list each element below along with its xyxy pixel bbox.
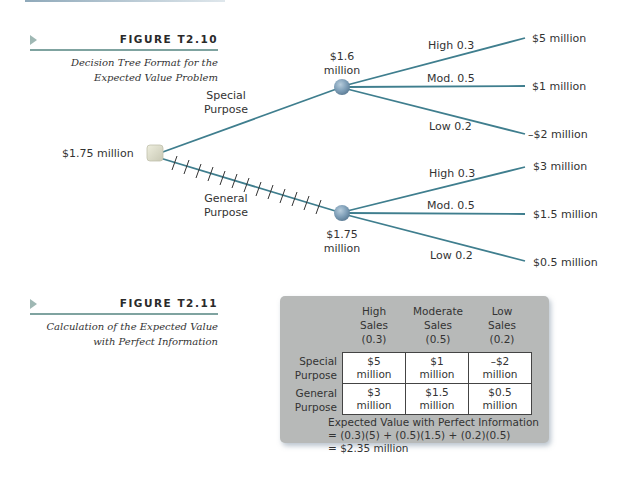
special-low-payoff: –$2 million [528,128,588,142]
general-low-prob: Low 0.2 [430,249,473,263]
figure-title: FIGURE T2.11 [120,297,218,309]
general-high-prob: High 0.3 [429,167,475,181]
evpi-calculation-text: Expected Value with Perfect Information … [328,416,539,455]
general-mod-prob: Mod. 0.5 [427,199,475,213]
table-row: $3million $1.5million $0.5million [343,384,532,415]
general-node-value: $1.75 million [318,228,366,256]
chance-node-general [334,205,350,221]
special-high-prob: High 0.3 [428,39,474,53]
row-label-general: General Purpose [295,386,337,414]
row-label-special: Special Purpose [295,354,337,382]
table-cell: $3million [343,384,406,415]
title-rule [30,313,218,315]
special-node-value: $1.6 million [318,50,366,78]
table-cell: $1million [406,353,469,384]
general-mod-payoff: $1.5 million [533,208,598,222]
general-low-payoff: $0.5 million [533,256,598,270]
table-cell: $5million [343,353,406,384]
table-cell: $0.5million [469,384,532,415]
evpi-calculation-box: High Sales (0.3) Moderate Sales (0.5) Lo… [280,296,549,443]
column-header-moderate: Moderate Sales (0.5) [406,304,470,346]
general-purpose-label: General Purpose [196,192,256,220]
special-purpose-label: Special Purpose [196,89,256,117]
special-mod-prob: Mod. 0.5 [427,72,475,86]
special-high-payoff: $5 million [532,32,586,46]
special-mod-payoff: $1 million [532,80,586,94]
chance-node-special [334,79,350,95]
root-value-label: $1.75 million [62,147,134,161]
table-row: $5million $1million –$2million [343,353,532,384]
figure-caption: Calculation of the Expected Value with P… [18,319,218,349]
column-header-low: Low Sales (0.2) [470,304,534,346]
table-cell: –$2million [469,353,532,384]
payoff-table: $5million $1million –$2million $3million… [342,352,532,415]
table-cell: $1.5million [406,384,469,415]
decision-node-square [147,145,163,161]
column-header-high: High Sales (0.3) [342,304,406,346]
triangle-arrow-icon [30,299,37,309]
general-high-payoff: $3 million [533,160,587,174]
special-low-prob: Low 0.2 [429,120,472,134]
